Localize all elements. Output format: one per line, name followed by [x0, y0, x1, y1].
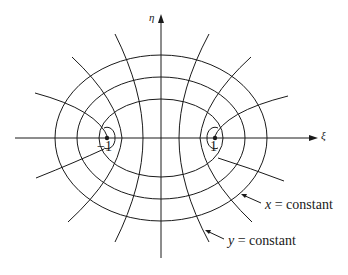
x-constant-text: = constant — [271, 197, 333, 212]
y-constant-text: = constant — [234, 233, 296, 248]
xi-axis-label: ξ — [321, 129, 326, 141]
hyperbola-shallow-left — [35, 93, 108, 178]
xi-axis-arrow-icon — [309, 135, 318, 141]
hyperbola-mid-right — [200, 57, 252, 222]
focus-left-label: −1 — [97, 139, 112, 155]
focus-right-label: 1 — [210, 139, 217, 155]
hyperbola-mid-left — [68, 57, 122, 222]
eta-axis-arrow-icon — [158, 14, 164, 23]
x-constant-annotation: x = constant — [265, 197, 333, 213]
y-constant-annotation: y = constant — [228, 233, 296, 249]
eta-axis-label: η — [149, 11, 154, 23]
